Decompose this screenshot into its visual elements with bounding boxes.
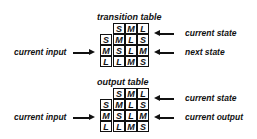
table-cell: S — [137, 56, 149, 67]
header-cell: S — [113, 23, 125, 34]
arrow-left-icon — [159, 98, 174, 100]
header-cell: L — [137, 88, 149, 99]
header-cell: M — [125, 88, 137, 99]
header-cell: M — [125, 23, 137, 34]
current-input-label: current input — [14, 112, 66, 122]
input-cell: L — [100, 56, 112, 67]
table-cell: S — [137, 99, 149, 110]
table-cell: M — [137, 110, 149, 121]
table-cell: S — [113, 110, 125, 121]
next-state-label: next state — [185, 47, 225, 57]
table-cell: M — [125, 121, 137, 132]
current-input-label: current input — [14, 47, 66, 57]
arrow-left-icon — [159, 52, 174, 54]
table-cell: M — [125, 56, 137, 67]
input-cell: S — [100, 34, 112, 45]
table-cell: S — [137, 121, 149, 132]
input-cell: M — [100, 110, 112, 121]
header-cell: L — [137, 23, 149, 34]
table-cell: S — [137, 34, 149, 45]
table-cell: S — [113, 45, 125, 56]
transition-table-title: transition table — [97, 12, 162, 22]
table-cell: M — [113, 34, 125, 45]
arrow-right-icon — [73, 52, 90, 54]
input-cell: M — [100, 45, 112, 56]
table-cell: L — [125, 34, 137, 45]
table-cell: L — [113, 56, 125, 67]
header-cell: S — [113, 88, 125, 99]
table-cell: L — [113, 121, 125, 132]
table-cell: L — [125, 110, 137, 121]
arrow-left-icon — [159, 33, 174, 35]
current-state-label: current state — [185, 93, 237, 103]
arrow-left-icon — [159, 117, 174, 119]
table-cell: L — [125, 45, 137, 56]
input-cell: S — [100, 99, 112, 110]
input-cell: L — [100, 121, 112, 132]
current-output-label: current output — [185, 112, 243, 122]
table-cell: L — [125, 99, 137, 110]
output-table-title: output table — [97, 77, 149, 87]
table-cell: M — [137, 45, 149, 56]
arrow-right-icon — [73, 117, 90, 119]
current-state-label: current state — [185, 28, 237, 38]
table-cell: M — [113, 99, 125, 110]
